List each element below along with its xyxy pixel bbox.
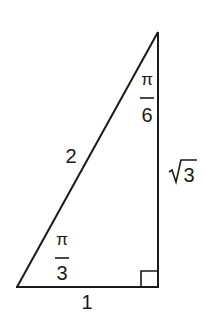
hypotenuse-line <box>17 32 158 287</box>
angle-label-top: π 6 <box>140 70 154 126</box>
angle-label-bottom-left: π 3 <box>55 230 69 284</box>
angle-bottom-left-denominator: 3 <box>56 262 67 284</box>
angle-bottom-left-numerator: π <box>56 230 68 249</box>
right-angle-marker-icon <box>141 271 158 287</box>
vertical-side-label: 3 <box>169 160 197 186</box>
angle-top-numerator: π <box>141 70 153 89</box>
base-label: 1 <box>81 291 92 313</box>
hypotenuse-label: 2 <box>65 145 76 167</box>
angle-top-denominator: 6 <box>141 104 152 126</box>
vertical-side-radicand: 3 <box>183 164 194 186</box>
triangle-diagram: π 6 2 3 π 3 1 <box>0 0 203 323</box>
